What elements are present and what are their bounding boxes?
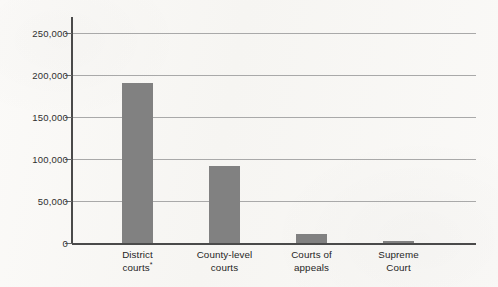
y-tick-label-100000: 100,000 bbox=[0, 155, 68, 165]
x-label-line2: Court bbox=[349, 262, 448, 275]
gridline-250000 bbox=[72, 33, 476, 34]
x-label-line2: appeals bbox=[262, 262, 361, 275]
bar-county-level-courts[interactable] bbox=[209, 166, 240, 243]
bar-courts-of-appeals[interactable] bbox=[296, 234, 327, 243]
x-label-courts-of-appeals: Courts of appeals bbox=[262, 249, 361, 274]
x-label-supreme-court: Supreme Court bbox=[349, 249, 448, 274]
gridline-200000 bbox=[72, 75, 476, 76]
y-tick-label-200000: 200,000 bbox=[0, 71, 68, 81]
y-tick-label-250000: 250,000 bbox=[0, 29, 68, 39]
y-tick-label-50000: 50,000 bbox=[0, 197, 68, 207]
y-tick-label-0: 0 bbox=[0, 239, 68, 249]
x-label-district-courts: District courts* bbox=[88, 249, 187, 274]
x-axis-line bbox=[72, 243, 476, 245]
x-label-line1: County-level bbox=[197, 249, 253, 260]
y-axis-line bbox=[71, 17, 73, 244]
x-label-line2-text: courts bbox=[122, 262, 149, 273]
bar-supreme-court[interactable] bbox=[383, 241, 414, 243]
x-label-line2: courts bbox=[175, 262, 274, 275]
bar-district-courts[interactable] bbox=[122, 83, 153, 243]
x-label-line2: courts* bbox=[88, 262, 187, 275]
x-label-line1: District bbox=[122, 249, 153, 260]
footnote-marker-icon: * bbox=[150, 260, 153, 267]
x-label-line1: Supreme bbox=[378, 249, 418, 260]
bar-chart: 250,000 200,000 150,000 100,000 50,000 0… bbox=[0, 0, 498, 287]
x-label-line1: Courts of bbox=[291, 249, 332, 260]
y-tick-label-150000: 150,000 bbox=[0, 113, 68, 123]
x-label-county-level-courts: County-level courts bbox=[175, 249, 274, 274]
